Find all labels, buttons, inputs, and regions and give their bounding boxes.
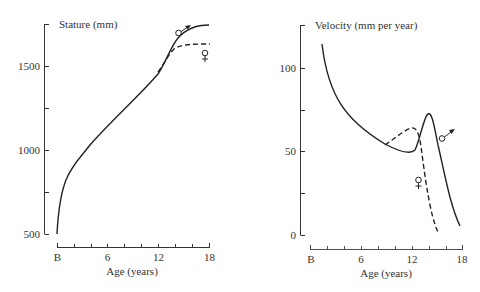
x-tick-label: B [307, 253, 314, 265]
y-tick-label: 100 [280, 62, 297, 74]
y-tick-label: 0 [291, 229, 297, 241]
velocity-male-line [322, 44, 460, 226]
x-tick-label: 6 [105, 251, 111, 263]
y-tick-label: 500 [24, 228, 41, 240]
velocity-female-line [385, 128, 438, 232]
x-tick-label: 18 [204, 251, 216, 263]
stature-chart: Stature (mm) 1500 1000 500 B 6 12 18 Age… [18, 18, 216, 278]
x-tick-label: 12 [153, 251, 164, 263]
x-tick-label: B [54, 251, 61, 263]
x-ticks [58, 243, 210, 248]
female-symbol-icon [202, 50, 208, 62]
x-ticks [311, 245, 463, 250]
x-tick-label: 6 [358, 253, 364, 265]
x-tick-label: 12 [407, 253, 418, 265]
male-symbol-icon [439, 129, 455, 141]
velocity-x-label: Age (years) [360, 267, 412, 280]
y-tick-label: 1500 [18, 60, 41, 72]
y-tick-label: 1000 [18, 144, 41, 156]
growth-charts: Stature (mm) 1500 1000 500 B 6 12 18 Age… [0, 0, 480, 292]
velocity-title: Velocity (mm per year) [315, 19, 418, 32]
male-symbol-icon [176, 25, 191, 36]
stature-title: Stature (mm) [59, 18, 118, 31]
x-tick-label: 18 [457, 253, 469, 265]
stature-female-line [158, 44, 210, 72]
velocity-chart: Velocity (mm per year) 100 50 0 B 6 12 1… [280, 19, 469, 280]
stature-male-line [57, 25, 209, 234]
y-tick-label: 50 [285, 145, 297, 157]
female-symbol-icon [416, 177, 422, 189]
stature-x-label: Age (years) [106, 265, 158, 278]
